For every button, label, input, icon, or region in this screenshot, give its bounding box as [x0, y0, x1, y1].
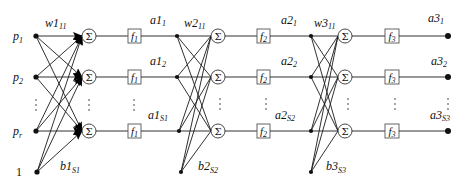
- weight-label-w1-11: w111: [45, 16, 66, 31]
- output-node-a3-2: [445, 74, 451, 80]
- output-label-a1-2: a12: [150, 54, 166, 69]
- neural-network-diagram: p1 p2 pr 1 w111 b1S1: [0, 0, 460, 184]
- input-node-p2: [33, 74, 38, 79]
- bias-node-2: [179, 170, 183, 174]
- bias-label-b3: b3S3: [326, 159, 346, 175]
- junction-node-l2-1: [175, 34, 179, 38]
- bias-node-3: [309, 170, 313, 174]
- layer-3-weight-connections: [311, 36, 338, 172]
- output-label-a3-1: a31: [428, 11, 444, 26]
- output-node-a3-1: [445, 33, 451, 39]
- layer-1-weight-connections: [36, 36, 82, 172]
- sigma-icon: Σ: [341, 126, 348, 137]
- output-label-a2-2: a22: [281, 54, 297, 69]
- transfer-box-f3-row2: f3: [385, 70, 399, 85]
- transfer-box-f1-row2: f1: [128, 70, 141, 85]
- junction-node-l2-2: [175, 75, 179, 79]
- transfer-box-f3-row3: f3: [385, 124, 399, 139]
- output-ellipsis: [447, 98, 449, 110]
- junction-node-l3-2: [309, 75, 313, 79]
- summing-node-l1-s1: Σ: [82, 124, 96, 138]
- transfer-ellipsis-l1: [133, 99, 135, 111]
- sigma-icon: Σ: [214, 31, 221, 42]
- transfer-box-f1-row1: f1: [128, 29, 141, 44]
- output-label-a1-s1: a1S1: [148, 108, 168, 123]
- weight-label-w2-11: w211: [184, 16, 205, 31]
- output-label-a1-1: a11: [150, 13, 166, 28]
- summing-node-l2-2: Σ: [211, 70, 225, 84]
- sigma-icon: Σ: [85, 126, 92, 137]
- sigma-icon: Σ: [341, 72, 348, 83]
- transfer-box-f1-row3: f1: [128, 124, 141, 139]
- transfer-box-f2-row3: f2: [257, 124, 270, 139]
- sigma-icon: Σ: [85, 72, 92, 83]
- input-node-pr: [33, 128, 38, 133]
- output-node-a3-s3: [445, 128, 451, 134]
- output-label-a3-s3: a3S3: [430, 108, 450, 123]
- junction-node-l3-1: [309, 34, 313, 38]
- transfer-ellipsis-l2: [265, 98, 267, 110]
- summing-node-l1-1: Σ: [82, 29, 96, 43]
- layer-2-weight-connections: [177, 36, 211, 172]
- transfer-box-f2-row1: f2: [257, 29, 270, 44]
- bias-connection-line: [311, 77, 338, 172]
- sigma-icon: Σ: [214, 126, 221, 137]
- input-label-p1: p1: [12, 29, 23, 45]
- output-label-a2-s2: a2S2: [275, 108, 295, 123]
- sum-ellipsis-l2: [219, 98, 221, 110]
- weight-label-w3-11: w311: [314, 16, 335, 31]
- transfer-box-f3-row1: f3: [385, 29, 399, 44]
- summing-node-l1-2: Σ: [82, 70, 96, 84]
- transfer-box-f2-row2: f2: [257, 70, 270, 85]
- output-label-a3-2: a32: [431, 54, 447, 69]
- junction-node-l2-s1: [177, 129, 181, 133]
- summing-node-l3-2: Σ: [338, 70, 352, 84]
- bias-label-b2: b2S2: [198, 159, 218, 175]
- summing-node-l2-s2: Σ: [211, 124, 225, 138]
- sigma-icon: Σ: [341, 31, 348, 42]
- output-label-a2-1: a21: [281, 13, 297, 28]
- summing-node-l2-1: Σ: [211, 29, 225, 43]
- junction-node-l3-s2: [309, 129, 313, 133]
- input-ellipsis: [35, 99, 37, 111]
- bias-connection-line: [37, 77, 82, 172]
- summing-node-l3-1: Σ: [338, 29, 352, 43]
- input-node-p1: [33, 33, 38, 38]
- input-label-p2: p2: [12, 70, 23, 86]
- summing-node-l3-s3: Σ: [338, 124, 352, 138]
- sum-ellipsis-l1: [88, 99, 90, 111]
- sum-ellipsis-l3: [347, 98, 349, 110]
- bias-label-b1: b1S1: [60, 159, 80, 175]
- bias-input-label: 1: [16, 165, 22, 179]
- sigma-icon: Σ: [214, 72, 221, 83]
- sigma-icon: Σ: [85, 31, 92, 42]
- layer-2: w211 b2S2 Σ Σ Σ f2 f2 f2 a21 a22 a2S2: [141, 13, 297, 175]
- layer-3: w311 b3S3 Σ Σ Σ f3 f3 f3 a31 a32 a3S3: [270, 11, 451, 175]
- bias-node-1: [34, 169, 39, 174]
- layer-1: p1 p2 pr 1 w111 b1S1: [12, 13, 168, 179]
- input-label-pr: pr: [12, 124, 23, 140]
- transfer-ellipsis-l3: [394, 98, 396, 110]
